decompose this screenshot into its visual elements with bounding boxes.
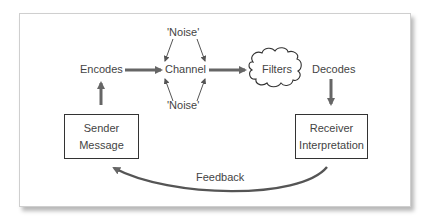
filters-label: Filters [262, 64, 292, 75]
receiver-label: Receiver [310, 122, 353, 134]
noise-arrow-top-right [197, 39, 205, 61]
encodes-label: Encodes [80, 64, 123, 75]
sender-box: Sender Message [64, 114, 139, 159]
diagram-arrows [0, 0, 434, 220]
feedback-label: Feedback [196, 172, 244, 183]
noise-bottom-label: 'Noise' [167, 100, 199, 111]
noise-arrow-bottom-right [197, 79, 205, 101]
message-label: Message [79, 139, 124, 151]
receiver-box: Receiver Interpretation [295, 114, 368, 159]
noise-arrow-bottom-left [165, 79, 173, 101]
channel-label: Channel [165, 64, 206, 75]
interpretation-label: Interpretation [299, 139, 364, 151]
sender-label: Sender [84, 122, 119, 134]
decodes-label: Decodes [312, 64, 355, 75]
noise-top-label: 'Noise' [167, 27, 199, 38]
noise-arrow-top-left [165, 39, 173, 61]
